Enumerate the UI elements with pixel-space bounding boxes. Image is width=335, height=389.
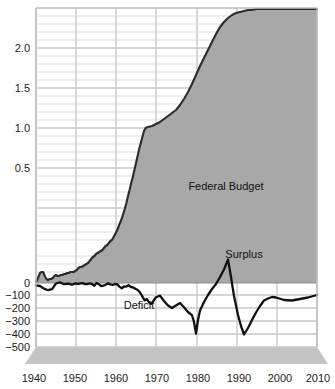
- chart-canvas: 2.0 1.5 1.0 0.5 0 −100 −200 −300 −400 −5…: [0, 0, 335, 389]
- federal-budget-chart: 2.0 1.5 1.0 0.5 0 −100 −200 −300 −400 −5…: [0, 0, 335, 389]
- surplus-label: Surplus: [225, 248, 263, 260]
- y-tick-neg-100: −100: [5, 289, 30, 301]
- chart-floor-slab: [25, 347, 328, 364]
- y-axis-negative-labels: −100 −200 −300 −400 −500: [5, 289, 30, 353]
- y-tick-neg-400: −400: [5, 328, 30, 340]
- y-tick-1-5: 1.5: [15, 82, 30, 94]
- federal-budget-label: Federal Budget: [188, 180, 263, 192]
- x-tick-1990: 1990: [227, 372, 251, 384]
- x-axis-labels: 1940 1950 1960 1970 1980 1990 2000 2010: [22, 372, 330, 384]
- y-tick-0-5: 0.5: [15, 162, 30, 174]
- y-tick-2-0: 2.0: [15, 42, 30, 54]
- x-tick-1940: 1940: [22, 372, 46, 384]
- x-tick-1960: 1960: [104, 372, 128, 384]
- y-tick-1-0: 1.0: [15, 122, 30, 134]
- y-tick-neg-300: −300: [5, 315, 30, 327]
- y-tick-neg-500: −500: [5, 341, 30, 353]
- x-tick-1980: 1980: [186, 372, 210, 384]
- x-tick-2000: 2000: [268, 372, 292, 384]
- x-tick-1950: 1950: [63, 372, 87, 384]
- y-axis-positive-labels: 2.0 1.5 1.0 0.5 0: [15, 42, 30, 289]
- y-tick-neg-200: −200: [5, 302, 30, 314]
- y-tick-0: 0: [24, 277, 30, 289]
- deficit-label: Deficit: [124, 299, 155, 311]
- x-tick-2010: 2010: [306, 372, 330, 384]
- x-tick-1970: 1970: [145, 372, 169, 384]
